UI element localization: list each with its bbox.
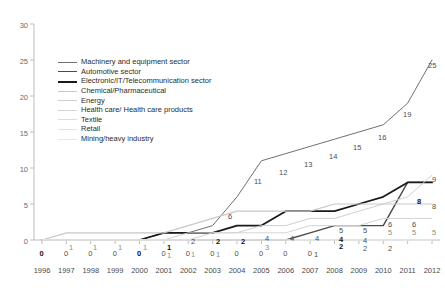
chart-container: 30 25 20 15 10 5 0 Machinery and equipme…: [0, 0, 445, 288]
data-label: 2: [216, 237, 220, 246]
legend-label: Machinery and equipment sector: [81, 57, 190, 66]
legend-item-mining-heavy-industry[interactable]: Mining/heavy industry: [58, 134, 238, 144]
data-label: 1: [191, 250, 195, 259]
legend-label: Mining/heavy industry: [81, 134, 154, 143]
baseline-zero-label: 0: [235, 249, 239, 258]
data-label: 5: [412, 228, 416, 237]
data-label: 4: [315, 234, 319, 243]
legend-item-retail[interactable]: Retail: [58, 124, 238, 134]
baseline-zero-label: 0: [161, 249, 165, 258]
x-tick-label-2004: 2004: [224, 266, 250, 275]
baseline-zero-label: 0: [64, 249, 68, 258]
data-label: 2: [363, 244, 367, 253]
x-tick-label-2010: 2010: [370, 266, 396, 275]
legend-swatch-mining: [58, 134, 77, 143]
data-label: 13: [304, 160, 312, 169]
data-label: 9: [432, 175, 436, 184]
legend-item-automotive[interactable]: Automotive sector: [58, 67, 238, 77]
legend-label: Retail: [81, 124, 100, 133]
x-tick-label-2003: 2003: [200, 266, 226, 275]
data-label: 14: [329, 152, 337, 161]
data-label: 4: [363, 236, 367, 245]
x-tick-label-1996: 1996: [29, 266, 55, 275]
data-label: 2: [388, 244, 392, 253]
baseline-zero-label: 0: [40, 249, 44, 258]
data-label: 2: [191, 237, 195, 246]
x-tick-label-2002: 2002: [175, 266, 201, 275]
baseline-zero-label: 0: [113, 249, 117, 258]
x-tick-label-2001: 2001: [151, 266, 177, 275]
data-label: 5: [432, 228, 436, 237]
legend-label: Automotive sector: [81, 67, 141, 76]
baseline-zero-label: 0: [283, 249, 287, 258]
data-label: 4: [339, 235, 343, 244]
legend-item-energy[interactable]: Energy: [58, 95, 238, 105]
series-line-3: [42, 204, 432, 240]
legend-label: Textile: [81, 115, 102, 124]
x-tick-label-1999: 1999: [102, 266, 128, 275]
legend-label: Electronic/IT/Telecommunication sector: [81, 76, 211, 85]
legend-item-chemical-pharmaceutical[interactable]: Chemical/Pharmaceutical: [58, 86, 238, 96]
baseline-zero-label: 0: [259, 249, 263, 258]
legend-item-electronic-it-telecom[interactable]: Electronic/IT/Telecommunication sector: [58, 76, 238, 86]
data-label: 1: [216, 250, 220, 259]
series-line-4: [42, 175, 432, 240]
data-label: 2: [241, 237, 245, 246]
data-label: 1: [118, 243, 122, 252]
data-label: 12: [279, 168, 287, 177]
baseline-zero-label: 0: [210, 249, 214, 258]
legend-item-textile[interactable]: Textile: [58, 115, 238, 125]
data-label: 19: [403, 110, 411, 119]
data-label: 25: [428, 61, 436, 70]
x-tick-label-1998: 1998: [78, 266, 104, 275]
legend-label: Chemical/Pharmaceutical: [81, 86, 166, 95]
legend-swatch-chemical: [58, 86, 77, 95]
data-label: 3: [265, 243, 269, 252]
data-label: 4: [290, 234, 294, 243]
data-label: 8: [417, 197, 421, 206]
legend-swatch-machinery: [58, 57, 77, 66]
x-tick-label-2007: 2007: [297, 266, 323, 275]
data-label: 11: [254, 177, 262, 186]
data-label: 5: [363, 226, 367, 235]
legend-swatch-automotive: [58, 67, 77, 76]
data-label: 6: [228, 212, 232, 221]
x-tick-label-1997: 1997: [53, 266, 79, 275]
baseline-zero-label: 0: [88, 249, 92, 258]
legend-label: Energy: [81, 96, 105, 105]
data-label: 1: [314, 250, 318, 259]
baseline-zero-label: 0: [137, 249, 141, 258]
data-label: 5: [388, 228, 392, 237]
legend: Machinery and equipment sector Automotiv…: [58, 57, 238, 143]
legend-swatch-textile: [58, 115, 77, 124]
data-label: 8: [432, 202, 436, 211]
legend-swatch-energy: [58, 96, 77, 105]
series-line-5: [42, 218, 432, 240]
data-label: 5: [339, 226, 343, 235]
baseline-zero-label: 0: [186, 249, 190, 258]
legend-item-machinery[interactable]: Machinery and equipment sector: [58, 57, 238, 67]
x-tick-label-2008: 2008: [322, 266, 348, 275]
data-label: 4: [265, 234, 269, 243]
x-tick-label-2012: 2012: [419, 266, 445, 275]
baseline-zero-label: 0: [308, 249, 312, 258]
data-label: 1: [143, 243, 147, 252]
x-tick-label-2009: 2009: [346, 266, 372, 275]
data-label: 15: [353, 143, 361, 152]
x-tick-label-2006: 2006: [273, 266, 299, 275]
legend-swatch-electronic: [58, 76, 77, 85]
plot-area: [0, 0, 445, 288]
x-tick-label-2011: 2011: [395, 266, 421, 275]
x-tick-label-2000: 2000: [127, 266, 153, 275]
data-label: 1: [93, 243, 97, 252]
legend-item-health-care[interactable]: Health care/ Health care products: [58, 105, 238, 115]
legend-swatch-health-care: [58, 105, 77, 114]
legend-label: Health care/ Health care products: [81, 105, 193, 114]
x-tick-label-2005: 2005: [248, 266, 274, 275]
data-label: 16: [378, 133, 386, 142]
data-label: 1: [167, 251, 171, 260]
legend-swatch-retail: [58, 124, 77, 133]
data-label: 1: [69, 243, 73, 252]
